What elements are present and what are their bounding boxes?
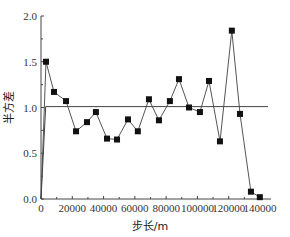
data-point-marker [248,189,254,195]
x-tick-label: 40000 [90,202,118,214]
x-tick-label: 20000 [59,202,87,214]
data-point-marker [135,128,141,134]
data-point-marker [104,136,110,142]
data-point-marker [84,119,90,125]
x-tick-label: 60000 [121,202,149,214]
series-lines [41,31,268,199]
y-tick-label: 2.0 [23,10,37,22]
y-axis-label: 半方差 [2,91,16,124]
data-point-marker [146,96,152,102]
x-tick-label: 0 [38,202,44,214]
data-point-marker [229,28,235,34]
axes [41,16,271,199]
data-point-marker [206,78,212,84]
data-point-marker [257,194,263,200]
y-tick-label: 0.5 [23,147,37,159]
data-point-marker [93,109,99,115]
semivariogram-chart: 0.00.51.01.52.00200004000060000800001000… [0,0,290,237]
data-point-marker [51,89,57,95]
data-point-marker [114,137,120,143]
x-axis-label: 步长/m [132,220,168,233]
y-tick-label: 1.5 [23,56,37,68]
x-tick-label: 100000 [181,202,215,214]
semivariance-line [41,31,260,199]
x-tick-label: 140000 [244,202,278,214]
data-point-marker [217,138,223,144]
model-fit-line [41,107,268,199]
data-point-marker [63,98,69,104]
data-point-marker [73,128,79,134]
data-point-marker [156,117,162,123]
y-tick-label: 0.0 [23,193,37,205]
data-markers [43,28,263,201]
data-point-marker [125,116,131,122]
data-point-marker [186,105,192,111]
data-point-marker [197,109,203,115]
data-point-marker [167,98,173,104]
x-tick-label: 120000 [212,202,246,214]
data-point-marker [176,76,182,82]
y-tick-label: 1.0 [23,102,37,114]
data-point-marker [43,59,49,65]
data-point-marker [237,111,243,117]
x-tick-label: 80000 [152,202,180,214]
